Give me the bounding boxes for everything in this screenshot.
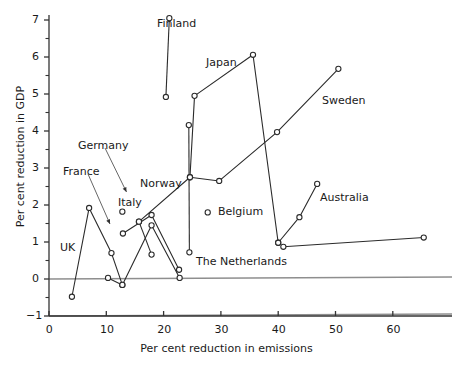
data-point-marker xyxy=(281,244,286,249)
data-point-marker xyxy=(69,294,74,299)
x-tick-label: 60 xyxy=(386,323,400,336)
x-tick-label: 40 xyxy=(272,323,286,336)
data-point-marker xyxy=(187,175,192,180)
data-point-marker xyxy=(274,130,279,135)
series-label-sweden: Sweden xyxy=(322,95,365,106)
germany-leader-line xyxy=(105,148,127,192)
x-tick-label: 30 xyxy=(215,323,229,336)
y-tick-label: 2 xyxy=(32,198,39,211)
x-tick-label: 0 xyxy=(46,323,53,336)
chart-figure: Per cent reduction in GDP Per cent reduc… xyxy=(0,0,453,370)
y-axis-label: Per cent reduction in GDP xyxy=(14,77,27,237)
data-point-marker xyxy=(149,223,154,228)
y-tick-label: 5 xyxy=(32,87,39,100)
series-label-italy: Italy xyxy=(118,197,142,208)
y-tick-label: 0 xyxy=(32,272,39,285)
series-label-japan: Japan xyxy=(206,57,237,68)
y-tick-label: 1 xyxy=(32,235,39,248)
data-point-marker xyxy=(276,240,281,245)
series-label-australia: Australia xyxy=(320,192,369,203)
data-point-marker xyxy=(250,52,255,57)
series-line-australia xyxy=(278,184,317,243)
data-point-marker xyxy=(336,66,341,71)
data-point-marker xyxy=(315,181,320,186)
data-point-marker xyxy=(421,235,426,240)
data-point-marker xyxy=(109,251,114,256)
france-leader-line xyxy=(88,174,110,224)
data-point-marker xyxy=(217,178,222,183)
y-tick-label: 7 xyxy=(32,13,39,26)
series-label-germany: Germany xyxy=(78,140,129,151)
series-line-uk xyxy=(72,208,122,297)
y-tick-label: 3 xyxy=(32,161,39,174)
series-label-norway: Norway xyxy=(140,178,182,189)
x-tick-label: 20 xyxy=(157,323,171,336)
data-point-marker xyxy=(149,212,154,217)
series-line-the-netherlands xyxy=(189,125,190,252)
y-tick-label: 6 xyxy=(32,50,39,63)
data-point-marker xyxy=(149,252,154,257)
series-line-sweden-low xyxy=(283,238,423,247)
data-point-marker xyxy=(176,267,181,272)
data-point-marker xyxy=(136,219,141,224)
data-point-marker xyxy=(120,209,125,214)
series-label-finland: Finland xyxy=(157,18,196,29)
data-point-marker xyxy=(163,94,168,99)
series-label-belgium: Belgium xyxy=(218,206,263,217)
series-label-the-netherlands: The Netherlands xyxy=(196,256,287,267)
data-point-marker xyxy=(186,122,191,127)
series-label-france: France xyxy=(63,166,100,177)
data-point-marker xyxy=(205,210,210,215)
y-tick-label: −1 xyxy=(26,309,42,322)
data-point-marker xyxy=(120,282,125,287)
x-tick-label: 50 xyxy=(329,323,343,336)
data-point-marker xyxy=(105,275,110,280)
data-point-marker xyxy=(120,231,125,236)
y-tick-label: 4 xyxy=(32,124,39,137)
data-point-marker xyxy=(187,250,192,255)
data-point-marker xyxy=(192,93,197,98)
x-tick-label: 10 xyxy=(100,323,114,336)
data-point-marker xyxy=(177,275,182,280)
data-point-marker xyxy=(87,205,92,210)
x-axis-label: Per cent reduction in emissions xyxy=(0,342,453,355)
series-line-norway-trend xyxy=(139,69,338,222)
data-point-marker xyxy=(297,215,302,220)
series-label-uk: UK xyxy=(60,242,75,253)
